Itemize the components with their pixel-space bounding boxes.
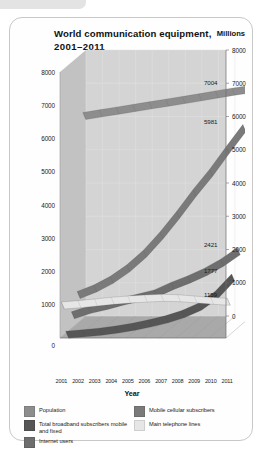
legend-swatch [134, 406, 145, 417]
x-axis-tick: 2007 [155, 378, 167, 384]
y-axis-left-tick: 1000 [30, 301, 55, 308]
y-axis-right-tick: 5000 [232, 146, 246, 153]
x-axis-tick: 2008 [172, 378, 184, 384]
x-axis-tick-labels: 2001200220032004200520062007200820092010… [30, 378, 245, 388]
x-axis-title: Year [10, 389, 254, 398]
series-value-label: 1777 [204, 267, 217, 274]
chart-title-line-1: World communication equipment, [54, 28, 230, 41]
legend-swatch [134, 420, 145, 431]
x-axis-tick: 2011 [222, 378, 233, 384]
legend-swatch [24, 420, 35, 431]
y-axis-left-tick: 7000 [30, 102, 55, 109]
x-axis-tick: 2010 [205, 378, 217, 384]
legend-item: Total broadband subscribers mobile and f… [24, 420, 130, 434]
x-axis-tick: 2002 [72, 378, 84, 384]
legend-label: Total broadband subscribers mobile and f… [39, 420, 130, 434]
y-axis-left-tick: 4000 [30, 202, 55, 209]
legend-item: Main telephone lines [134, 420, 240, 431]
y-axis-right-tick: 2000 [232, 246, 246, 253]
x-axis-tick: 2006 [139, 378, 151, 384]
y-axis-unit-label: Millions [217, 29, 245, 38]
legend-column-left: PopulationTotal broadband subscribers mo… [24, 406, 130, 451]
y-axis-left-tick: 5000 [30, 168, 55, 175]
x-axis-tick: 2003 [89, 378, 101, 384]
x-axis-tick: 2001 [56, 378, 68, 384]
chart-card: World communication equipment, 2001–2011… [9, 17, 253, 441]
x-axis-tick: 2009 [188, 378, 200, 384]
y-axis-right-tick: 1000 [232, 279, 246, 286]
y-axis-left-tick: 8000 [30, 69, 55, 76]
series-value-label: 7004 [204, 79, 217, 86]
legend-label: Mobile cellular subscribers [149, 406, 215, 414]
legend-swatch [24, 437, 35, 448]
legend-label: Internet users [39, 437, 73, 445]
series-value-label: 5981 [204, 118, 217, 125]
legend-label: Population [39, 406, 65, 414]
series-value-label: 1159 [204, 291, 217, 298]
legend-item: Mobile cellular subscribers [134, 406, 240, 417]
y-axis-right-tick: 3000 [232, 213, 246, 220]
legend-swatch [24, 406, 35, 417]
y-axis-right-tick: 6000 [232, 113, 246, 120]
page-edge-artifact [0, 0, 86, 9]
chart-legend: PopulationTotal broadband subscribers mo… [24, 406, 240, 451]
series-value-label: 2421 [204, 241, 217, 248]
x-axis-tick: 2004 [105, 378, 117, 384]
x-axis-tick: 2005 [122, 378, 134, 384]
legend-column-right: Mobile cellular subscribersMain telephon… [134, 406, 240, 451]
y-axis-left-tick-zero: 0 [30, 342, 55, 349]
y-axis-right-tick: 4000 [232, 180, 246, 187]
y-axis-left-tick: 2000 [30, 268, 55, 275]
chart-svg [30, 46, 245, 376]
chart-plot-area: 0100020003000400050006000700080001000200… [30, 46, 245, 376]
legend-item: Population [24, 406, 130, 417]
y-axis-left-tick: 3000 [30, 235, 55, 242]
legend-label: Main telephone lines [149, 420, 200, 428]
legend-item: Internet users [24, 437, 130, 448]
y-axis-left-tick: 6000 [30, 135, 55, 142]
y-axis-right-tick: 7000 [232, 80, 246, 87]
y-axis-right-tick: 0 [232, 313, 235, 320]
y-axis-right-tick: 8000 [232, 47, 246, 54]
